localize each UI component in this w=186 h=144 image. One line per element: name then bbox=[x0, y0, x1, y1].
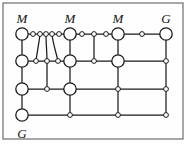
node-r1-h bbox=[104, 32, 109, 37]
node-r1-g bbox=[92, 32, 97, 37]
node-r1-e bbox=[57, 32, 62, 37]
node-r2-a bbox=[34, 59, 39, 64]
node-r2-c bbox=[56, 59, 61, 64]
node-r1-b bbox=[38, 32, 43, 37]
node-M3 bbox=[112, 28, 124, 40]
node-r2-c3 bbox=[112, 55, 124, 67]
label-M-1: M bbox=[16, 11, 29, 26]
label-G-top: G bbox=[161, 11, 171, 26]
node-r1-i bbox=[140, 32, 145, 37]
figure-container: MMMGG bbox=[0, 0, 186, 144]
node-G-bottom-left bbox=[16, 109, 28, 121]
node-r2-c2 bbox=[64, 55, 76, 67]
node-r2-d bbox=[92, 59, 97, 64]
node-M1 bbox=[16, 28, 28, 40]
graph-diagram: MMMGG bbox=[0, 0, 186, 144]
node-M2 bbox=[64, 28, 76, 40]
node-r3-c4 bbox=[164, 87, 169, 92]
node-r1-d bbox=[50, 32, 55, 37]
figure-border bbox=[3, 3, 183, 139]
label-M-2: M bbox=[64, 11, 77, 26]
node-G-top-right bbox=[160, 28, 172, 40]
node-r2-b bbox=[45, 59, 50, 64]
node-r1-c bbox=[44, 32, 49, 37]
node-r2-c4 bbox=[164, 59, 169, 64]
label-M-3: M bbox=[112, 11, 125, 26]
node-r3-c2 bbox=[64, 83, 76, 95]
label-G-bottom: G bbox=[17, 126, 27, 141]
node-r4-c3 bbox=[116, 113, 121, 118]
node-r4-c2 bbox=[68, 113, 73, 118]
node-r3-a bbox=[45, 87, 50, 92]
node-r3-c1 bbox=[16, 83, 28, 95]
node-r4-c4 bbox=[164, 113, 169, 118]
node-r1-f bbox=[80, 32, 85, 37]
node-r1-a bbox=[31, 32, 36, 37]
node-r3-c3 bbox=[116, 87, 121, 92]
node-r2-c1 bbox=[16, 55, 28, 67]
